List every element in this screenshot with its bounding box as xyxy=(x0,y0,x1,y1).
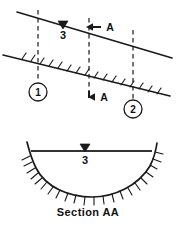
station-marker-1: 1 xyxy=(29,83,47,101)
station-marker-2-label: 2 xyxy=(130,104,136,115)
plan-view-group: 3 A A 1 2 xyxy=(3,10,172,118)
upper-bank-line xyxy=(17,12,172,58)
station-marker-2: 2 xyxy=(124,100,142,118)
figure-canvas: 3 A A 1 2 xyxy=(0,0,177,228)
section-water-depth-label: 3 xyxy=(82,154,88,166)
figure-caption: Section AA xyxy=(57,206,119,218)
plan-water-depth-label: 3 xyxy=(60,29,66,41)
station-marker-1-label: 1 xyxy=(35,87,41,98)
section-label-upper: A xyxy=(106,21,114,33)
section-label-lower: A xyxy=(100,91,108,103)
cross-section-group: 3 xyxy=(22,142,163,205)
hydrology-figure: 3 A A 1 2 xyxy=(0,0,177,228)
section-arrow-lower xyxy=(88,91,95,101)
lower-bank-line xyxy=(3,55,170,96)
section-arrow-upper xyxy=(86,23,101,31)
